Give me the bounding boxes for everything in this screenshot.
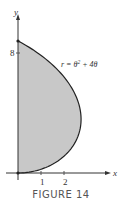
y-tick-label-8: 8	[10, 48, 15, 58]
polar-area-figure: 1 2 8 x y r = θ2 + 4θ	[0, 0, 122, 213]
y-axis-label: y	[13, 7, 18, 17]
top-point	[16, 39, 19, 42]
figure-caption: FIGURE 14	[0, 189, 122, 200]
equation-label: r = θ2 + 4θ	[61, 59, 98, 69]
x-tick-label-1: 1	[40, 177, 45, 187]
x-axis-arrow-icon	[105, 171, 111, 175]
origin-point	[16, 171, 19, 174]
x-axis-label: x	[112, 168, 117, 178]
x-tick-label-2: 2	[63, 177, 68, 187]
